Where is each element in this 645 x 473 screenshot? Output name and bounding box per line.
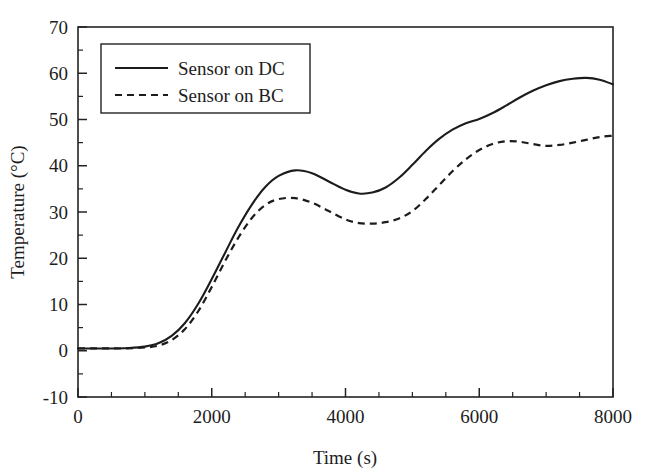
y-tick-label: 10 <box>49 294 68 315</box>
x-tick-label: 0 <box>73 406 83 427</box>
legend-label-0: Sensor on DC <box>178 58 285 79</box>
y-tick-label: 20 <box>49 248 68 269</box>
line-chart: -10010203040506070 02000400060008000 Sen… <box>0 0 645 473</box>
y-tick-label: 40 <box>49 155 68 176</box>
y-tick-label: 70 <box>49 17 68 38</box>
y-tick-label: 50 <box>49 109 68 130</box>
y-tick-label: 30 <box>49 202 68 223</box>
legend-label-1: Sensor on BC <box>178 85 284 106</box>
x-tick-label: 2000 <box>193 406 231 427</box>
x-tick-label: 6000 <box>460 406 498 427</box>
x-tick-label: 8000 <box>594 406 632 427</box>
y-axis-title: Temperature (°C) <box>7 145 29 278</box>
x-axis-tick-labels: 02000400060008000 <box>73 406 632 427</box>
y-axis-tick-labels: -10010203040506070 <box>43 17 68 408</box>
y-tick-label: 60 <box>49 63 68 84</box>
y-tick-label: -10 <box>43 387 68 408</box>
x-axis-title: Time (s) <box>313 447 377 469</box>
chart-figure: -10010203040506070 02000400060008000 Sen… <box>0 0 645 473</box>
x-tick-label: 4000 <box>327 406 365 427</box>
legend: Sensor on DC Sensor on BC <box>101 44 310 113</box>
y-tick-label: 0 <box>59 340 69 361</box>
